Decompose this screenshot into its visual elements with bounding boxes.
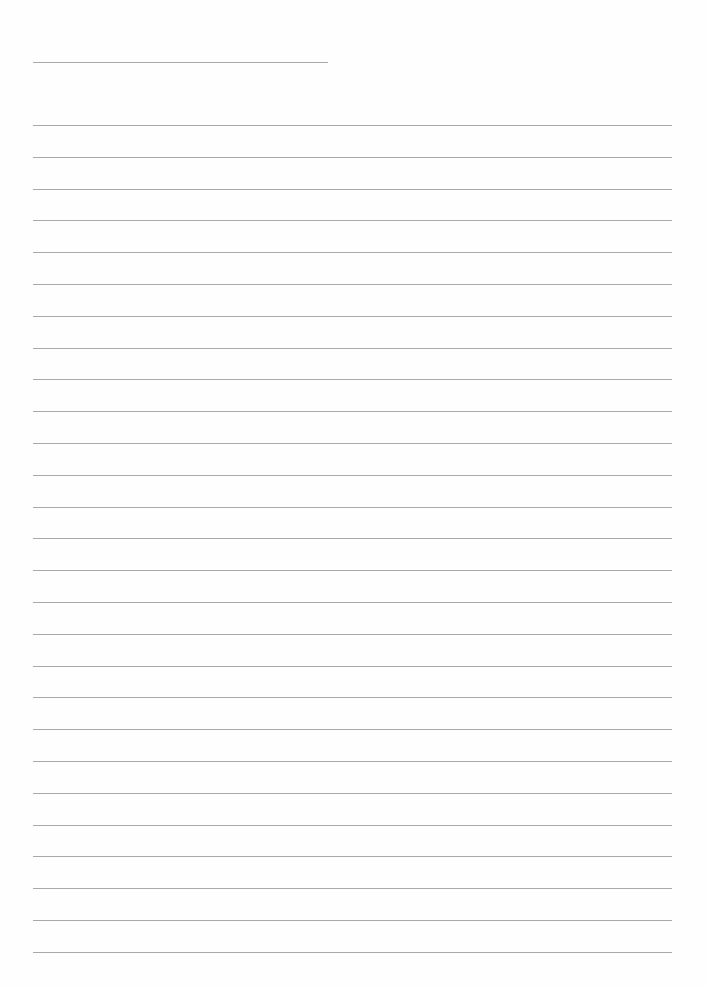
- ruled-line: [33, 189, 672, 190]
- ruled-line: [33, 220, 672, 221]
- ruled-line: [33, 348, 672, 349]
- ruled-line: [33, 475, 672, 476]
- ruled-line: [33, 602, 672, 603]
- ruled-line: [33, 316, 672, 317]
- ruled-line: [33, 284, 672, 285]
- ruled-line: [33, 825, 672, 826]
- ruled-line: [33, 157, 672, 158]
- ruled-line: [33, 443, 672, 444]
- ruled-line: [33, 729, 672, 730]
- lined-paper-page: [0, 0, 706, 989]
- ruled-line: [33, 761, 672, 762]
- ruled-line: [33, 507, 672, 508]
- ruled-line: [33, 411, 672, 412]
- ruled-line: [33, 379, 672, 380]
- ruled-line: [33, 697, 672, 698]
- ruled-line: [33, 570, 672, 571]
- ruled-line: [33, 538, 672, 539]
- ruled-line: [33, 666, 672, 667]
- ruled-line: [33, 793, 672, 794]
- ruled-line: [33, 125, 672, 126]
- ruled-line: [33, 634, 672, 635]
- ruled-line: [33, 252, 672, 253]
- ruled-line: [33, 856, 672, 857]
- ruled-line: [33, 952, 672, 953]
- ruled-line: [33, 888, 672, 889]
- ruled-line: [33, 920, 672, 921]
- title-line: [33, 62, 328, 63]
